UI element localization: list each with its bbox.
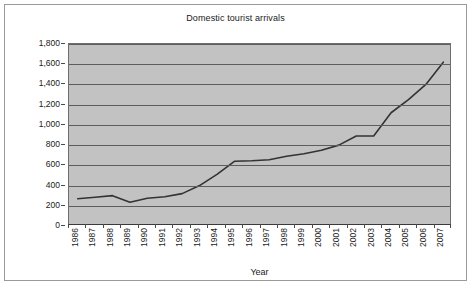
- x-axis-tick-label: 1989: [122, 228, 136, 247]
- y-axis-tick-mark: [61, 225, 65, 226]
- gridline: [69, 145, 450, 146]
- gridline: [69, 186, 450, 187]
- x-axis-title: Year: [68, 267, 451, 277]
- x-axis-tick-mark: [225, 224, 226, 228]
- x-axis-tick-mark: [312, 224, 313, 228]
- plot-area: [68, 43, 451, 225]
- gridline: [69, 206, 450, 207]
- x-axis-tick-mark: [68, 224, 69, 228]
- x-axis-tick-mark: [381, 224, 382, 228]
- y-axis-tick-mark: [61, 63, 65, 64]
- x-axis-tick-label: 1997: [261, 228, 275, 247]
- y-axis-tick-mark: [61, 83, 65, 84]
- x-axis-tick-label: 1995: [226, 228, 240, 247]
- y-axis-tick-labels: 02004006008001,0001,2001,4001,6001,800: [25, 43, 65, 225]
- x-axis-tick-label: 2000: [313, 228, 327, 247]
- x-axis-tick-mark: [294, 224, 295, 228]
- gridline: [69, 44, 450, 45]
- x-axis-tick-mark: [416, 224, 417, 228]
- x-axis-tick-mark: [242, 224, 243, 228]
- x-axis-tick-label: 1993: [192, 228, 206, 247]
- x-axis-tick-label: 1987: [87, 228, 101, 247]
- x-axis-tick-mark: [207, 224, 208, 228]
- y-axis-tick-mark: [61, 185, 65, 186]
- y-axis-tick-label: 1,800: [39, 38, 60, 48]
- y-axis-tick-label: 1,600: [39, 58, 60, 68]
- x-axis-tick-label: 1988: [105, 228, 119, 247]
- x-axis-tick-label: 2007: [435, 228, 449, 247]
- x-axis-tick-mark: [364, 224, 365, 228]
- x-axis-tick-mark: [138, 224, 139, 228]
- y-axis-tick-label: 1,200: [39, 99, 60, 109]
- chart-title: Domestic tourist arrivals: [5, 13, 466, 23]
- gridline: [69, 105, 450, 106]
- x-axis-tick-label: 1991: [157, 228, 171, 247]
- y-axis-tick-label: 600: [46, 159, 60, 169]
- x-axis-tick-label: 1992: [174, 228, 188, 247]
- y-axis-tick-mark: [61, 43, 65, 44]
- x-axis-tick-mark: [85, 224, 86, 228]
- x-axis-tick-mark: [399, 224, 400, 228]
- x-axis-tick-label: 2001: [331, 228, 345, 247]
- y-axis-tick-mark: [61, 104, 65, 105]
- x-axis-tick-label: 1994: [209, 228, 223, 247]
- x-axis-tick-label: 1990: [139, 228, 153, 247]
- x-axis-tick-mark: [277, 224, 278, 228]
- x-axis-tick-label: 2005: [400, 228, 414, 247]
- data-series-line: [69, 44, 452, 226]
- y-axis-tick-label: 0: [55, 220, 60, 230]
- x-axis-tick-mark: [450, 224, 451, 228]
- x-axis-tick-label: 1998: [279, 228, 293, 247]
- x-axis-tick-mark: [347, 224, 348, 228]
- gridline: [69, 64, 450, 65]
- x-axis-tick-mark: [103, 224, 104, 228]
- y-axis-tick-mark: [61, 144, 65, 145]
- x-axis-tick-mark: [329, 224, 330, 228]
- x-axis-tick-label: 2006: [418, 228, 432, 247]
- x-axis-tick-mark: [190, 224, 191, 228]
- x-axis-tick-labels: 1986198719881989199019911992199319941995…: [68, 228, 451, 268]
- y-axis-tick-mark: [61, 205, 65, 206]
- x-axis-tick-label: 2003: [366, 228, 380, 247]
- x-axis-tick-mark: [260, 224, 261, 228]
- x-axis-tick-mark: [434, 224, 435, 228]
- gridline: [69, 165, 450, 166]
- x-axis-tick-label: 2004: [383, 228, 397, 247]
- y-axis-tick-label: 1,000: [39, 119, 60, 129]
- gridline: [69, 125, 450, 126]
- gridline: [69, 84, 450, 85]
- chart-frame: Domestic tourist arrivals Millions 02004…: [4, 4, 467, 281]
- y-axis-tick-label: 400: [46, 180, 60, 190]
- y-axis-tick-label: 800: [46, 139, 60, 149]
- y-axis-tick-label: 1,400: [39, 78, 60, 88]
- y-axis-tick-mark: [61, 164, 65, 165]
- x-axis-tick-label: 1996: [244, 228, 258, 247]
- x-axis-tick-label: 1999: [296, 228, 310, 247]
- x-axis-tick-mark: [155, 224, 156, 228]
- y-axis-tick-label: 200: [46, 200, 60, 210]
- x-axis-tick-mark: [120, 224, 121, 228]
- y-axis-tick-mark: [61, 124, 65, 125]
- x-axis-tick-mark: [172, 224, 173, 228]
- x-axis-tick-label: 1986: [70, 228, 84, 247]
- x-axis-tick-label: 2002: [348, 228, 362, 247]
